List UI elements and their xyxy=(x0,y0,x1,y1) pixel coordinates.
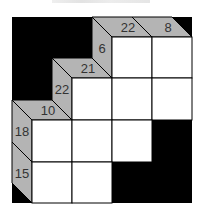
down-clue-value: 10 xyxy=(41,103,55,118)
kakuro-board: 22821106221815 xyxy=(0,0,201,215)
entry-cell[interactable] xyxy=(72,162,112,203)
down-clue-value: 8 xyxy=(164,20,171,35)
across-clue-value: 6 xyxy=(98,41,105,56)
down-clue-value: 21 xyxy=(81,61,95,76)
entry-cell[interactable] xyxy=(32,162,72,203)
across-clue-value: 15 xyxy=(15,166,29,181)
entry-cell[interactable] xyxy=(152,37,192,78)
entry-cell[interactable] xyxy=(72,78,112,120)
across-clue-value: 18 xyxy=(15,124,29,139)
entry-cell[interactable] xyxy=(112,78,152,120)
entry-cell[interactable] xyxy=(112,37,152,78)
entry-cell[interactable] xyxy=(72,120,112,162)
down-clue-value: 22 xyxy=(121,20,135,35)
across-clue-value: 22 xyxy=(55,82,69,97)
entry-cell[interactable] xyxy=(32,120,72,162)
entry-cell[interactable] xyxy=(112,120,152,162)
entry-cell[interactable] xyxy=(152,78,192,120)
